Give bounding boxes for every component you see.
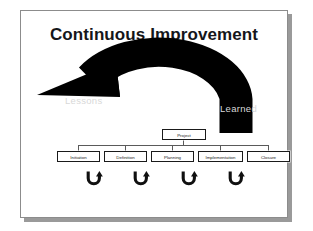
node-initiation: Initiation	[57, 151, 100, 162]
node-project-label: Project	[163, 130, 205, 140]
arc-label-lessons: Lessons	[65, 95, 102, 106]
u-turn-arrow-icon-3	[180, 170, 198, 188]
node-initiation-label: Initiation	[58, 152, 99, 162]
u-turn-arrow-icon-1	[85, 170, 103, 188]
node-project: Project	[162, 129, 206, 140]
u-turn-arrow-icon-2	[132, 170, 150, 188]
node-definition: Definition	[104, 151, 147, 162]
node-closure: Closure	[247, 151, 290, 162]
node-definition-label: Definition	[105, 152, 146, 162]
node-closure-label: Closure	[248, 152, 289, 162]
slide-screenshot: Continuous Improvement Lessons Learned P…	[0, 0, 313, 231]
arc-label-learned: Learned	[220, 103, 257, 114]
u-turn-arrow-icon-4	[227, 170, 245, 188]
node-implementation-label: Implementation	[199, 152, 242, 162]
connector-bus	[78, 145, 269, 146]
node-planning-label: Planning	[152, 152, 193, 162]
arc-band	[79, 38, 253, 133]
node-implementation: Implementation	[198, 151, 243, 162]
page-title: Continuous Improvement	[21, 25, 287, 45]
node-planning: Planning	[151, 151, 194, 162]
arc-arrowhead	[37, 62, 120, 97]
arc-joint	[79, 62, 120, 97]
slide-frame: Continuous Improvement Lessons Learned P…	[20, 10, 288, 218]
